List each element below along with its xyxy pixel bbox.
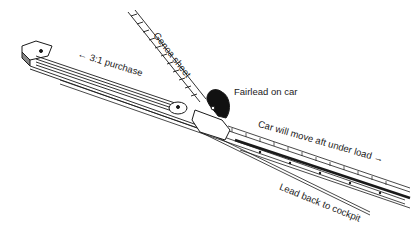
car-block-icon [169,102,187,114]
genoa-track [60,80,410,208]
genoa-car-diagram: ← 3:1 purchase Genoa sheet Fairlead on c… [0,0,416,228]
fairlead-label: Fairlead on car [234,86,297,97]
diagram-drawing [0,0,416,228]
fairlead-car-icon [192,90,230,140]
